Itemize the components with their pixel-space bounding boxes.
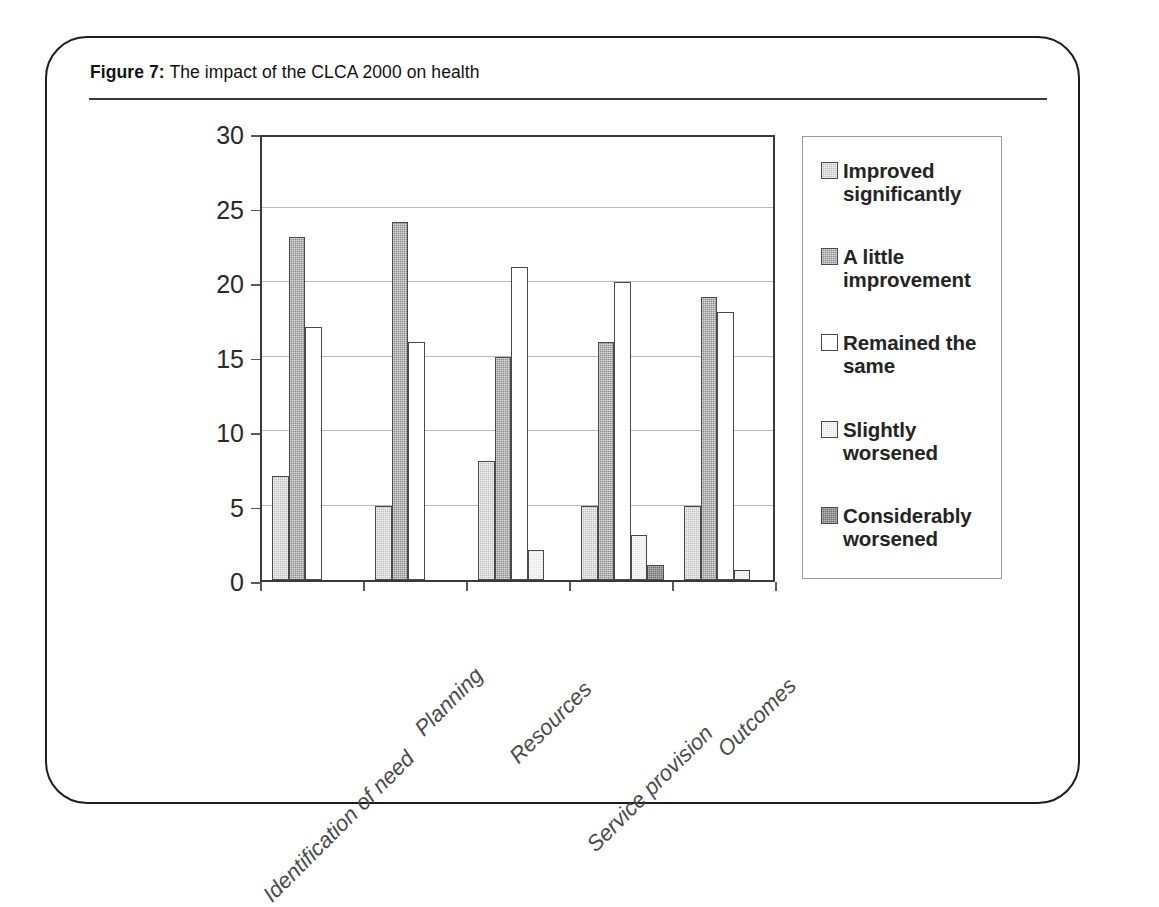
legend-swatch-icon [821,507,838,524]
bar-group [674,137,777,580]
bar-group [571,137,674,580]
legend-swatch-icon [821,248,838,265]
x-axis-category-label: Service provision [581,720,718,857]
legend-item-label: Considerably worsened [843,504,1001,550]
y-axis-tick-label: 5 [200,495,244,520]
legend-item-label: A little improvement [843,245,1001,291]
legend-item[interactable]: Improved significantly [821,159,1001,205]
legend-swatch-icon [821,421,838,438]
y-axis-tick-label: 15 [200,346,244,371]
y-axis-tick-mark [251,508,260,510]
bar[interactable] [614,282,631,580]
chart-legend: Improved significantlyA little improveme… [802,136,1002,579]
y-axis-tick-mark [251,135,260,137]
y-axis-tick-mark [251,210,260,212]
y-axis-tick-mark [251,284,260,286]
bar[interactable] [528,550,545,580]
y-axis-tick-label: 10 [200,421,244,446]
bar[interactable] [647,565,664,580]
x-axis-category-label: Outcomes [712,673,801,762]
x-axis-category-labels: Identification of needPlanningResourcesS… [260,590,775,780]
y-axis-tick-mark [251,359,260,361]
legend-item-label: Improved significantly [843,159,1001,205]
bar[interactable] [495,357,512,581]
legend-item[interactable]: A little improvement [821,245,1001,291]
legend-swatch-icon [821,162,838,179]
legend-item[interactable]: Remained the same [821,331,1001,377]
bar[interactable] [392,222,409,580]
y-axis-tick-label: 25 [200,197,244,222]
bar[interactable] [511,267,528,580]
bar-group [365,137,468,580]
x-axis-category-label: Resources [504,676,597,769]
bar[interactable] [631,535,648,580]
x-axis-category-label: Planning [409,663,488,742]
bar[interactable] [717,312,734,580]
bar[interactable] [272,476,289,580]
legend-item-label: Remained the same [843,331,1001,377]
legend-item[interactable]: Slightly worsened [821,418,1001,464]
bar[interactable] [684,506,701,581]
legend-item-label: Slightly worsened [843,418,1001,464]
bar[interactable] [478,461,495,580]
bar[interactable] [408,342,425,580]
chart-area: No. of responses 051015202530 Identifica… [47,38,1082,806]
y-axis-tick-label: 20 [200,272,244,297]
bar[interactable] [375,506,392,581]
bar[interactable] [701,297,718,580]
bar[interactable] [734,570,751,580]
bar[interactable] [289,237,306,580]
figure-card: Figure 7: The impact of the CLCA 2000 on… [45,36,1080,804]
bar[interactable] [598,342,615,580]
y-axis-tick-mark [251,433,260,435]
legend-swatch-icon [821,334,838,351]
bar-group [262,137,365,580]
bar-group [468,137,571,580]
bar[interactable] [581,506,598,581]
plot-box [260,135,775,582]
x-axis-tick-mark [775,582,777,591]
x-axis-category-label: Identification of need [257,746,419,907]
y-axis-tick-label: 0 [200,570,244,595]
legend-item[interactable]: Considerably worsened [821,504,1001,550]
bar[interactable] [305,327,322,580]
y-axis-tick-label: 30 [200,123,244,148]
y-axis-tick-mark [251,582,260,584]
